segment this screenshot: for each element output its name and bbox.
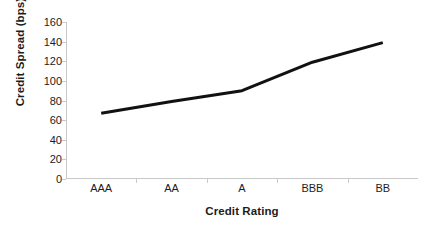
y-axis-tick-mark — [62, 101, 66, 102]
x-axis-tick-label: BB — [375, 183, 390, 194]
y-axis-tick-label: 160 — [18, 17, 62, 28]
data-series-line — [66, 22, 418, 179]
y-axis-tick-label-group: 020406080100120140160 — [18, 15, 62, 185]
x-axis-tick-label: A — [238, 183, 245, 194]
y-axis-tick-mark — [62, 159, 66, 160]
y-axis-tick-label: 40 — [18, 134, 62, 145]
x-axis-tick-label: AA — [164, 183, 179, 194]
y-axis-tick-label: 120 — [18, 56, 62, 67]
y-axis-tick-mark — [62, 81, 66, 82]
y-axis-tick-mark — [62, 61, 66, 62]
plot-area — [66, 22, 418, 179]
credit-spread-line-chart: Credit Spread (bps) 02040608010012014016… — [0, 0, 444, 232]
x-axis-tick-label-group: AAAAAABBBBB — [66, 183, 418, 199]
series-polyline — [101, 43, 383, 114]
y-axis-tick-label: 20 — [18, 154, 62, 165]
x-axis-tick-label: BBB — [301, 183, 323, 194]
y-axis-tick-mark — [62, 120, 66, 121]
y-axis-tick-label: 80 — [18, 95, 62, 106]
y-axis-tick-mark — [62, 42, 66, 43]
y-axis-tick-label: 140 — [18, 36, 62, 47]
y-axis-tick-label: 100 — [18, 75, 62, 86]
y-axis-tick-label: 60 — [18, 115, 62, 126]
x-axis-title: Credit Rating — [66, 205, 418, 217]
y-axis-tick-mark — [62, 22, 66, 23]
y-axis-tick-label: 0 — [18, 174, 62, 185]
y-axis-tick-mark — [62, 179, 66, 180]
y-axis-tick-mark — [62, 140, 66, 141]
x-axis-tick-label: AAA — [90, 183, 112, 194]
